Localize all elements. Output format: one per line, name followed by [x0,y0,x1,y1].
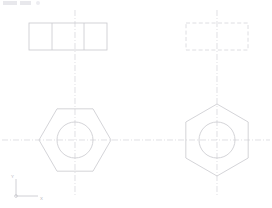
toolbar-chip-2[interactable] [20,1,31,5]
drawing-canvas[interactable]: Y X [0,0,272,208]
ucs-axis-indicator[interactable]: Y X [11,174,43,201]
ucs-y-axis-label: Y [11,174,14,179]
rectangle-outline-solid[interactable] [29,23,107,50]
centerlines-group [2,10,270,196]
top-left-rectangle-view[interactable] [29,23,107,50]
toolbar-chip-3[interactable] [36,1,40,5]
technical-drawing-svg: Y X [0,0,272,208]
window-toolbar-strip [0,0,272,7]
ucs-x-axis-label: X [40,196,43,201]
rectangle-divider-lines [52,23,84,50]
toolbar-chip-1[interactable] [3,1,17,5]
